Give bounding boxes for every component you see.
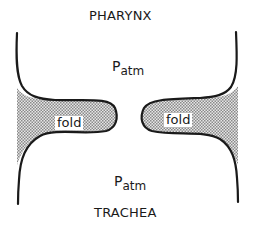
upper-pressure-subscript: atm <box>120 64 144 78</box>
right-fold-label: fold <box>164 113 192 127</box>
lower-pressure-subscript: atm <box>122 179 146 193</box>
lower-pressure-label: Patm <box>114 173 146 193</box>
pharynx-label: PHARYNX <box>89 8 152 23</box>
trachea-label: TRACHEA <box>94 205 156 220</box>
left-fold-label: fold <box>55 116 83 130</box>
upper-pressure-label: Patm <box>112 58 144 78</box>
airway-diagram <box>0 0 257 228</box>
